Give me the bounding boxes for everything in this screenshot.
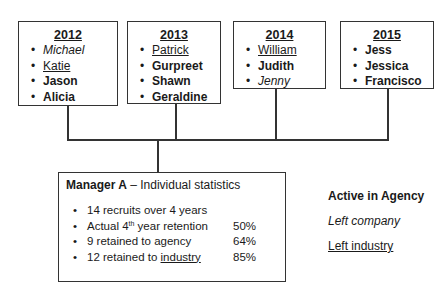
year-label: 2012 <box>19 28 117 42</box>
legend-left-industry: Left industry <box>328 239 393 253</box>
connector-2015 <box>387 89 389 140</box>
recruit-name: Gurpreet <box>140 59 220 75</box>
stat-item: Actual 4th year retention50% <box>73 219 273 235</box>
connector-to-stats <box>157 139 159 173</box>
recruit-name: Jessica <box>353 59 433 75</box>
name-list: Michael Katie Jason Alicia <box>19 43 117 105</box>
year-label: 2014 <box>234 28 325 42</box>
recruit-name: Jason <box>31 74 117 90</box>
stats-title: Manager A – Individual statistics <box>66 178 240 192</box>
stats-box: Manager A – Individual statistics 14 rec… <box>58 172 286 282</box>
connector-2014 <box>275 89 277 140</box>
year-label: 2013 <box>128 28 220 42</box>
recruit-name: Katie <box>31 59 117 75</box>
name-list: Patrick Gurpreet Shawn Geraldine <box>128 43 220 105</box>
year-label: 2015 <box>341 28 433 42</box>
name-list: Jess Jessica Francisco <box>341 43 433 90</box>
year-box-2012: 2012 Michael Katie Jason Alicia <box>18 21 118 106</box>
recruit-name: Francisco <box>353 74 433 90</box>
stat-value: 85% <box>233 250 256 266</box>
year-box-2013: 2013 Patrick Gurpreet Shawn Geraldine <box>127 21 221 104</box>
stat-item: 9 retained to agency64% <box>73 234 273 250</box>
connector-horizontal <box>67 139 389 141</box>
name-list: William Judith Jenny <box>234 43 325 90</box>
recruit-name: Shawn <box>140 74 220 90</box>
year-box-2014: 2014 William Judith Jenny <box>233 21 326 89</box>
recruit-name: Jenny <box>246 74 325 90</box>
recruit-name: Geraldine <box>140 90 220 106</box>
recruit-name: Alicia <box>31 90 117 106</box>
recruit-name: Michael <box>31 43 117 59</box>
legend-left-company: Left company <box>328 214 400 228</box>
legend-active: Active in Agency <box>328 189 424 203</box>
stat-item: 12 retained to industry85% <box>73 250 273 266</box>
connector-2012 <box>67 105 69 140</box>
recruit-name: Judith <box>246 59 325 75</box>
stat-value: 64% <box>233 234 256 250</box>
recruit-name: Jess <box>353 43 433 59</box>
stat-item: 14 recruits over 4 years <box>73 203 273 219</box>
recruit-name: William <box>246 43 325 59</box>
stats-list: 14 recruits over 4 years Actual 4th year… <box>73 203 273 265</box>
stat-value: 50% <box>233 219 256 235</box>
connector-2013 <box>175 104 177 140</box>
year-box-2015: 2015 Jess Jessica Francisco <box>340 21 434 89</box>
recruit-name: Patrick <box>140 43 220 59</box>
